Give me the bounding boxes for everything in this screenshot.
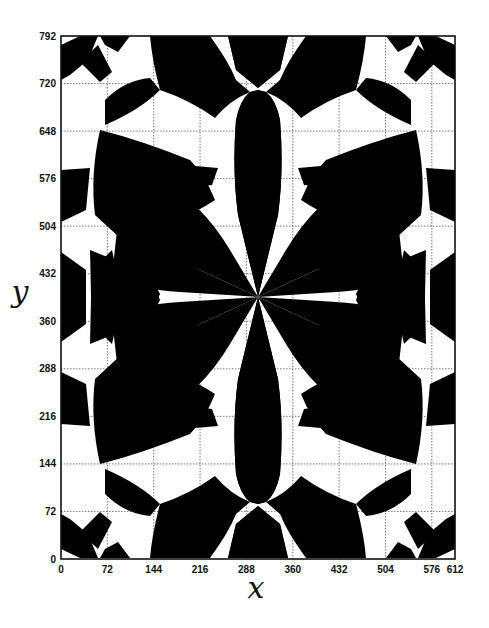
x-tick-label: 72 <box>102 564 114 575</box>
x-tick-label: 216 <box>192 564 209 575</box>
x-tick-label: 144 <box>145 564 162 575</box>
x-tick-label: 576 <box>423 564 440 575</box>
plot-area <box>61 36 455 559</box>
y-tick-label: 0 <box>50 554 56 565</box>
x-tick-label: 360 <box>284 564 301 575</box>
pattern-chart: 072144216288360432504576612 072144216288… <box>0 0 489 628</box>
y-tick-label: 144 <box>39 458 56 469</box>
y-tick-label: 432 <box>39 268 56 279</box>
x-axis-label: x <box>248 570 265 605</box>
y-tick-label: 720 <box>39 78 56 89</box>
y-tick-label: 648 <box>39 126 56 137</box>
x-tick-label: 504 <box>377 564 394 575</box>
y-tick-label: 360 <box>39 316 56 327</box>
y-axis-label: y <box>10 274 30 309</box>
y-tick-label: 216 <box>39 411 56 422</box>
x-tick-label: 432 <box>331 564 348 575</box>
y-tick-label: 504 <box>39 221 56 232</box>
pattern-shapes <box>61 36 455 558</box>
y-tick-label: 576 <box>39 173 56 184</box>
y-axis-ticks: 072144216288360432504576648720792 <box>39 31 56 565</box>
y-tick-label: 72 <box>45 506 57 517</box>
y-tick-label: 792 <box>39 31 56 42</box>
x-tick-label: 612 <box>447 564 464 575</box>
y-tick-label: 288 <box>39 363 56 374</box>
x-tick-label: 0 <box>58 564 64 575</box>
